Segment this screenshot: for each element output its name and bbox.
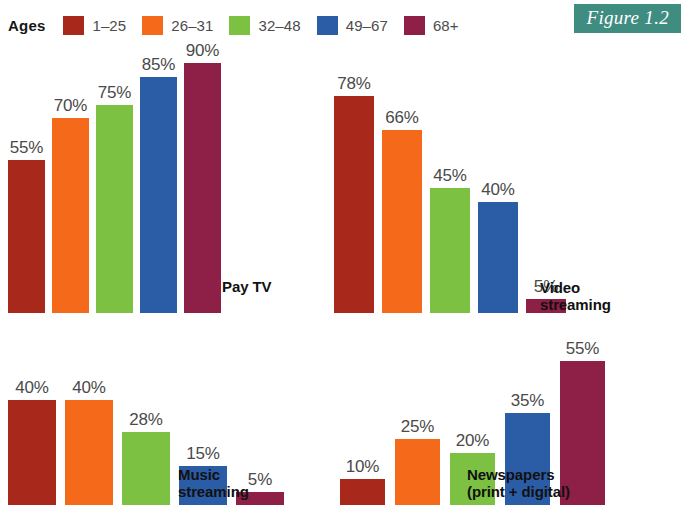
category-label-line: streaming xyxy=(178,483,249,500)
bar-value-label: 15% xyxy=(186,445,220,462)
bar-value-label: 25% xyxy=(401,418,435,435)
bar-value-label: 40% xyxy=(15,379,49,396)
legend-swatch-1-25 xyxy=(63,16,84,35)
bar-value-label: 28% xyxy=(129,411,163,428)
bar-rect xyxy=(52,118,89,313)
bar-music-streaming-2631: 40% xyxy=(65,400,113,505)
bar-value-label: 40% xyxy=(481,181,515,198)
category-label-pay-tv: Pay TV xyxy=(222,278,271,295)
legend-item-32-48: 32–48 xyxy=(229,16,300,35)
bar-value-label: 10% xyxy=(346,458,380,475)
category-label-line: Video xyxy=(540,279,611,296)
bar-rect xyxy=(140,77,177,313)
bar-video-streaming-2631: 66% xyxy=(382,130,422,313)
bar-rect xyxy=(8,160,45,313)
bar-pay-tv-4967: 85% xyxy=(140,77,177,313)
chart-panel-pay-tv: 55%70%75%85%90% xyxy=(8,60,308,313)
bar-value-label: 35% xyxy=(511,392,545,409)
bar-value-label: 5% xyxy=(248,471,272,488)
bar-rect xyxy=(122,432,170,505)
legend-label-1-25: 1–25 xyxy=(92,17,126,34)
category-label-line: streaming xyxy=(540,296,611,313)
bar-rect xyxy=(184,63,221,313)
bar-music-streaming-125: 40% xyxy=(8,400,56,505)
legend: Ages 1–25 26–31 32–48 49–67 68+ xyxy=(8,13,475,37)
bar-newspapers-125: 10% xyxy=(340,479,385,505)
bar-video-streaming-125: 78% xyxy=(334,96,374,313)
legend-swatch-32-48 xyxy=(229,16,250,35)
bar-music-streaming-3248: 28% xyxy=(122,432,170,505)
bar-value-label: 85% xyxy=(142,56,176,73)
category-label-newspapers: Newspapers(print + digital) xyxy=(467,466,570,500)
bar-rect xyxy=(65,400,113,505)
bar-video-streaming-3248: 45% xyxy=(430,188,470,313)
bar-pay-tv-2631: 70% xyxy=(52,118,89,313)
bar-group-pay-tv: 55%70%75%85%90% xyxy=(8,60,221,313)
bar-value-label: 78% xyxy=(337,75,371,92)
legend-item-68plus: 68+ xyxy=(404,16,459,35)
bar-value-label: 75% xyxy=(98,84,132,101)
legend-label-68plus: 68+ xyxy=(433,17,459,34)
legend-item-26-31: 26–31 xyxy=(142,16,213,35)
legend-swatch-68plus xyxy=(404,16,425,35)
bar-rect xyxy=(430,188,470,313)
figure-tag: Figure 1.2 xyxy=(574,4,681,33)
bar-rect xyxy=(340,479,385,505)
bar-rect xyxy=(478,202,518,313)
bar-value-label: 55% xyxy=(10,139,44,156)
bar-value-label: 40% xyxy=(72,379,106,396)
bar-pay-tv-125: 55% xyxy=(8,160,45,313)
bar-value-label: 66% xyxy=(385,109,419,126)
bar-rect xyxy=(8,400,56,505)
bar-pay-tv-3248: 75% xyxy=(96,105,133,313)
bar-rect xyxy=(382,130,422,313)
chart-panel-music-streaming: 40%40%28%15%5% xyxy=(8,360,308,505)
category-label-line: (print + digital) xyxy=(467,483,570,500)
category-label-line: Newspapers xyxy=(467,466,570,483)
category-label-line: Music xyxy=(178,466,249,483)
legend-label-32-48: 32–48 xyxy=(258,17,300,34)
bar-value-label: 20% xyxy=(456,432,490,449)
bar-group-video-streaming: 78%66%45%40%5% xyxy=(334,60,566,313)
bar-value-label: 90% xyxy=(186,42,220,59)
bar-video-streaming-4967: 40% xyxy=(478,202,518,313)
legend-item-1-25: 1–25 xyxy=(63,16,126,35)
bar-value-label: 45% xyxy=(433,167,467,184)
legend-title: Ages xyxy=(8,17,45,34)
legend-label-26-31: 26–31 xyxy=(171,17,213,34)
legend-item-49-67: 49–67 xyxy=(317,16,388,35)
bar-rect xyxy=(395,439,440,505)
bar-value-label: 55% xyxy=(566,340,600,357)
bar-rect xyxy=(334,96,374,313)
legend-swatch-49-67 xyxy=(317,16,338,35)
legend-swatch-26-31 xyxy=(142,16,163,35)
chart-panel-video-streaming: 78%66%45%40%5% xyxy=(334,60,664,313)
legend-label-49-67: 49–67 xyxy=(346,17,388,34)
bar-value-label: 70% xyxy=(54,97,88,114)
bar-pay-tv-68+: 90% xyxy=(184,63,221,313)
category-label-music-streaming: Musicstreaming xyxy=(178,466,249,500)
category-label-video-streaming: Videostreaming xyxy=(540,279,611,313)
bar-newspapers-2631: 25% xyxy=(395,439,440,505)
category-label-line: Pay TV xyxy=(222,278,271,295)
bar-rect xyxy=(96,105,133,313)
